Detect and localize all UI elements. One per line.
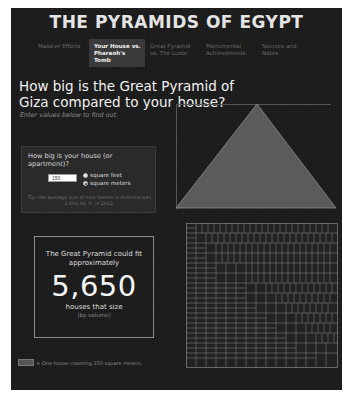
radio-square-meters[interactable]	[83, 181, 88, 186]
page-title: THE PYRAMIDS OF EGYPT	[11, 12, 342, 32]
section-subtitle: Enter values below to find out.	[20, 111, 118, 119]
tab-massive-efforts[interactable]: Massive Efforts	[33, 39, 89, 67]
pyramid-graphic	[176, 104, 336, 214]
result-count: 5,650	[35, 269, 153, 303]
house-size-form: How big is your house (or apartment)? sq…	[21, 146, 156, 213]
tab-great-pyramid-vs-luxor[interactable]: Great Pyramid vs. The Luxor	[145, 39, 201, 67]
result-box: The Great Pyramid could fit approximatel…	[34, 236, 154, 338]
unit-option-square-feet[interactable]: square feet	[83, 172, 122, 178]
tab-your-house-vs-pharaohs-tomb[interactable]: Your House vs. Pharaoh's Tomb	[89, 39, 145, 67]
page-panel: THE PYRAMIDS OF EGYPT Massive Efforts Yo…	[11, 8, 342, 390]
unit-option-square-meters[interactable]: square meters	[83, 180, 131, 186]
unit-label-square-feet: square feet	[90, 172, 122, 178]
legend-label: = One house covering 150 square meters.	[36, 360, 142, 366]
legend-house-swatch-icon	[18, 359, 34, 366]
houses-grid	[186, 223, 338, 368]
radio-square-feet[interactable]	[83, 173, 88, 178]
legend: = One house covering 150 square meters.	[18, 359, 142, 366]
unit-label-square-meters: square meters	[90, 180, 131, 186]
house-size-input[interactable]	[48, 174, 77, 182]
result-note: (by volume)	[35, 311, 153, 319]
house-size-tip: Tip: the average size of new homes in Am…	[22, 195, 157, 207]
tab-monumental-achievements[interactable]: Monumental Achievements	[201, 39, 257, 67]
nav-tabs: Massive Efforts Your House vs. Pharaoh's…	[33, 39, 313, 69]
result-lead-text: The Great Pyramid could fit approximatel…	[35, 250, 153, 268]
tab-sources-and-notes[interactable]: Sources and Notes	[257, 39, 313, 67]
house-size-question: How big is your house (or apartment)?	[28, 152, 155, 168]
result-unit: houses that size	[35, 303, 153, 311]
